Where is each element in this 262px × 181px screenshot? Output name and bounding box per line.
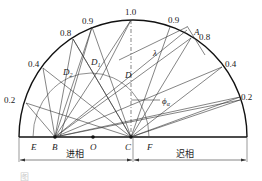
scale-0.4-right: 0.4: [225, 59, 237, 69]
label-E: E: [30, 142, 37, 152]
scale-0.9-left: 0.9: [82, 16, 94, 26]
scale-0.2-left: 0.2: [4, 95, 15, 105]
point-B: [53, 135, 57, 139]
scale-0.4-left: 0.4: [28, 59, 40, 69]
region-lag: 迟相: [176, 148, 194, 159]
label-O: O: [90, 142, 97, 152]
label-A: A: [193, 27, 200, 37]
power-circle-diagram: 0.2 0.4 0.8 0.9 1.0 0.9 0.8 0.4 0.2 A D …: [0, 0, 262, 181]
label-phi: ϕα: [162, 96, 171, 107]
point-O: [91, 135, 95, 139]
label-F: F: [146, 142, 153, 152]
scale-1.0-top: 1.0: [125, 7, 137, 17]
scale-0.9-right: 0.9: [168, 15, 180, 25]
caption: 图: [20, 172, 29, 181]
outer-semicircle: [19, 20, 247, 137]
scale-0.2-right: 0.2: [241, 92, 252, 102]
label-C: C: [125, 142, 132, 152]
label-D: D: [124, 70, 132, 80]
point-C: [129, 135, 133, 139]
label-B: B: [52, 142, 58, 152]
label-D2: D2: [62, 67, 73, 78]
scale-0.8-left: 0.8: [60, 28, 72, 38]
region-lead: 进相: [66, 148, 84, 159]
label-lambda: λ: [152, 48, 157, 58]
scale-0.8-right: 0.8: [199, 32, 211, 42]
lead-dimension: 进相: [20, 148, 132, 162]
label-D1: D1: [90, 57, 101, 68]
